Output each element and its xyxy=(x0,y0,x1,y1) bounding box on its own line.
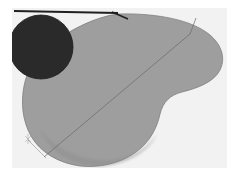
right-white-margin xyxy=(228,0,237,173)
image-canvas: Abstract gray bean shape with dark circl… xyxy=(0,0,237,173)
left-white-margin xyxy=(0,0,12,173)
top-white-margin xyxy=(0,0,237,8)
bottom-white-margin xyxy=(0,168,237,173)
dark-circle xyxy=(9,15,73,79)
scene-svg xyxy=(0,0,237,173)
